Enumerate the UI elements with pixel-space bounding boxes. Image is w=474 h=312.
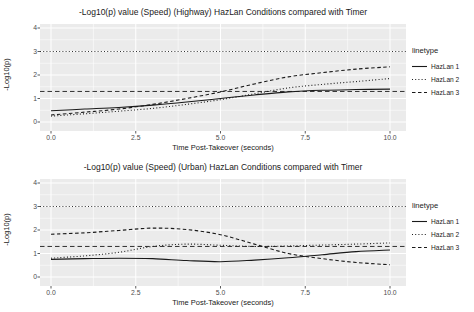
- y-tick-label: 3: [21, 203, 37, 210]
- y-tick-label: 2: [21, 226, 37, 233]
- dashed-line-key-icon: [412, 243, 427, 252]
- legend: linetype HazLan 1 HazLan 2 HazLan 3: [412, 46, 459, 99]
- x-tick-label: 5.0: [206, 134, 236, 141]
- legend-item-label: HazLan 1: [431, 63, 459, 70]
- x-tick-label: 5.0: [206, 289, 236, 296]
- legend-item-label: HazLan 2: [431, 76, 459, 83]
- legend-item-label: HazLan 3: [431, 89, 459, 96]
- y-tick-label: 1: [21, 250, 37, 257]
- y-tick-label: 0: [21, 273, 37, 280]
- solid-line-key-icon: [412, 62, 427, 71]
- y-tick-label: 3: [21, 48, 37, 55]
- legend-item-label: HazLan 2: [431, 231, 459, 238]
- legend-title: linetype: [412, 201, 459, 210]
- legend-item-label: HazLan 3: [431, 244, 459, 251]
- chart-title: -Log10(p) value (Speed) (Highway) HazLan…: [40, 7, 406, 17]
- x-axis-label: Time Post-Takeover (seconds): [40, 298, 406, 307]
- y-axis-label: -Log10(p): [2, 35, 11, 115]
- legend-item-label: HazLan 1: [431, 218, 459, 225]
- dotted-line-key-icon: [412, 75, 427, 84]
- y-axis-label: -Log10(p): [2, 190, 11, 270]
- y-tick-label: 0: [21, 118, 37, 125]
- x-tick-label: 10.0: [375, 289, 405, 296]
- dashed-line-key-icon: [412, 88, 427, 97]
- dotted-line-key-icon: [412, 230, 427, 239]
- legend-item: HazLan 3: [412, 241, 459, 254]
- highway-chart: -Log10(p) value (Speed) (Highway) HazLan…: [0, 0, 474, 156]
- y-tick-label: 1: [21, 95, 37, 102]
- urban-chart: -Log10(p) value (Speed) (Urban) HazLan C…: [0, 155, 474, 311]
- x-tick-label: 2.5: [121, 134, 151, 141]
- solid-line-key-icon: [412, 217, 427, 226]
- y-tick-label: 2: [21, 71, 37, 78]
- figure-canvas: -Log10(p) value (Speed) (Highway) HazLan…: [0, 0, 474, 312]
- x-axis-label: Time Post-Takeover (seconds): [40, 143, 406, 152]
- legend-item: HazLan 2: [412, 73, 459, 86]
- x-tick-label: 0.0: [36, 289, 66, 296]
- chart-title: -Log10(p) value (Speed) (Urban) HazLan C…: [40, 162, 406, 172]
- x-tick-label: 0.0: [36, 134, 66, 141]
- legend-item: HazLan 2: [412, 228, 459, 241]
- x-tick-label: 2.5: [121, 289, 151, 296]
- legend-item: HazLan 3: [412, 86, 459, 99]
- x-tick-label: 7.5: [290, 134, 320, 141]
- legend-title: linetype: [412, 46, 459, 55]
- panel-background: [40, 24, 406, 131]
- plot-panel: [40, 24, 406, 131]
- y-tick-label: 4: [21, 24, 37, 31]
- plot-panel: [40, 179, 406, 286]
- legend: linetype HazLan 1 HazLan 2 HazLan 3: [412, 201, 459, 254]
- legend-item: HazLan 1: [412, 60, 459, 73]
- x-tick-label: 7.5: [290, 289, 320, 296]
- y-tick-label: 4: [21, 179, 37, 186]
- legend-item: HazLan 1: [412, 215, 459, 228]
- x-tick-label: 10.0: [375, 134, 405, 141]
